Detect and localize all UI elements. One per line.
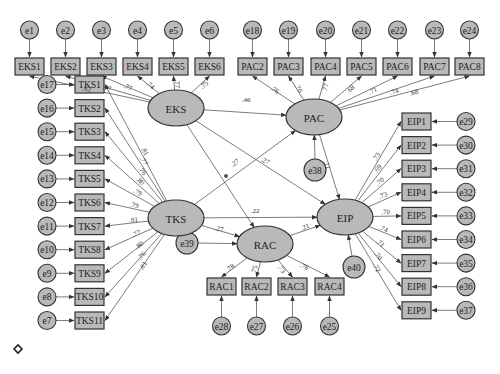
error-label: e18: [246, 26, 260, 36]
indicator-tks2[interactable]: TKS2: [75, 100, 104, 117]
error-term-e26[interactable]: e26: [284, 317, 302, 335]
latent-eks[interactable]: EKS: [148, 90, 204, 126]
error-term-e25[interactable]: e25: [321, 317, 339, 335]
indicator-eip6[interactable]: EIP6: [402, 231, 431, 248]
indicator-pac8[interactable]: PAC8: [455, 58, 484, 75]
error-term-e35[interactable]: e35: [457, 254, 475, 272]
indicator-rac3[interactable]: RAC3: [278, 278, 307, 295]
indicator-eks3[interactable]: EKS3: [87, 58, 116, 75]
error-term-e37[interactable]: e37: [457, 301, 475, 319]
error-term-e19[interactable]: e19: [280, 21, 298, 39]
indicator-eks4[interactable]: EKS4: [123, 58, 152, 75]
error-term-e10[interactable]: e10: [38, 241, 56, 259]
indicator-eip8[interactable]: EIP8: [402, 278, 431, 295]
error-term-e24[interactable]: e24: [461, 21, 479, 39]
path-crossing-dot: [224, 174, 228, 178]
indicator-tks8[interactable]: TKS8: [75, 241, 104, 258]
indicator-label: EKS4: [126, 62, 149, 72]
disturbance-e40[interactable]: e40: [343, 256, 365, 278]
path-coefficient: .21: [299, 221, 311, 232]
error-term-e6[interactable]: e6: [201, 21, 219, 39]
indicator-label: TKS6: [78, 198, 101, 208]
latent-label: RAC: [254, 239, 277, 251]
indicator-pac3[interactable]: PAC3: [274, 58, 303, 75]
error-term-e29[interactable]: e29: [457, 113, 475, 131]
path-coefficient: .69: [372, 163, 384, 175]
indicator-tks4[interactable]: TKS4: [75, 147, 104, 164]
error-term-e20[interactable]: e20: [317, 21, 335, 39]
indicator-eip1[interactable]: EIP1: [402, 113, 431, 130]
error-term-e3[interactable]: e3: [93, 21, 111, 39]
error-term-e16[interactable]: e16: [38, 99, 56, 117]
indicator-eip5[interactable]: EIP5: [402, 207, 431, 224]
error-term-e31[interactable]: e31: [457, 160, 475, 178]
indicator-tks10[interactable]: TKS10: [75, 288, 104, 305]
path-coefficient: .78: [224, 262, 236, 274]
indicator-pac5[interactable]: PAC5: [347, 58, 376, 75]
indicator-tks3[interactable]: TKS3: [75, 123, 104, 140]
indicator-pac7[interactable]: PAC7: [420, 58, 449, 75]
error-term-e27[interactable]: e27: [248, 317, 266, 335]
indicator-label: TKS7: [78, 222, 101, 232]
indicator-label: EIP1: [407, 117, 426, 127]
error-term-e28[interactable]: e28: [213, 317, 231, 335]
indicator-eip7[interactable]: EIP7: [402, 255, 431, 272]
indicator-rac1[interactable]: RAC1: [207, 278, 236, 295]
indicator-label: EIP9: [407, 306, 426, 316]
path-coefficient: .70: [372, 250, 384, 262]
error-term-e2[interactable]: e2: [57, 21, 75, 39]
indicator-pac2[interactable]: PAC2: [238, 58, 267, 75]
indicator-pac6[interactable]: PAC6: [383, 58, 412, 75]
error-term-e15[interactable]: e15: [38, 123, 56, 141]
path-coefficient: .77: [131, 228, 143, 239]
indicator-tks9[interactable]: TKS9: [75, 265, 104, 282]
indicator-rac2[interactable]: RAC2: [242, 278, 271, 295]
error-term-e30[interactable]: e30: [457, 136, 475, 154]
latent-pac[interactable]: PAC: [286, 99, 342, 135]
error-term-e33[interactable]: e33: [457, 207, 475, 225]
indicator-eip3[interactable]: EIP3: [402, 160, 431, 177]
error-term-e34[interactable]: e34: [457, 231, 475, 249]
error-term-e13[interactable]: e13: [38, 170, 56, 188]
disturbance-arrow: [348, 235, 352, 256]
error-term-e9[interactable]: e9: [38, 264, 56, 282]
indicator-tks5[interactable]: TKS5: [75, 170, 104, 187]
indicator-eks2[interactable]: EKS2: [51, 58, 80, 75]
latent-rac[interactable]: RAC: [237, 226, 293, 262]
indicator-label: TKS5: [78, 174, 101, 184]
indicator-tks7[interactable]: TKS7: [75, 218, 104, 235]
error-term-e36[interactable]: e36: [457, 278, 475, 296]
loading-arrow: [105, 228, 153, 250]
indicator-tks6[interactable]: TKS6: [75, 194, 104, 211]
error-term-e14[interactable]: e14: [38, 146, 56, 164]
error-term-e12[interactable]: e12: [38, 194, 56, 212]
error-label: e36: [459, 282, 473, 292]
error-term-e7[interactable]: e7: [38, 312, 56, 330]
indicator-eip4[interactable]: EIP4: [402, 184, 431, 201]
error-label: e2: [61, 26, 70, 36]
indicator-pac4[interactable]: PAC4: [311, 58, 340, 75]
error-term-e8[interactable]: e8: [38, 288, 56, 306]
indicator-eip9[interactable]: EIP9: [402, 302, 431, 319]
latent-tks[interactable]: TKS: [148, 200, 204, 236]
error-term-e1[interactable]: e1: [21, 21, 39, 39]
indicator-eip2[interactable]: EIP2: [402, 137, 431, 154]
error-term-e17[interactable]: e17: [38, 76, 56, 94]
indicator-eks1[interactable]: EKS1: [15, 58, 44, 75]
indicator-eks6[interactable]: EKS6: [195, 58, 224, 75]
indicator-rac4[interactable]: RAC4: [315, 278, 344, 295]
error-label: e33: [459, 211, 473, 221]
error-term-e4[interactable]: e4: [129, 21, 147, 39]
error-term-e11[interactable]: e11: [38, 217, 56, 235]
error-term-e18[interactable]: e18: [244, 21, 262, 39]
indicator-tks11[interactable]: TKS11: [75, 312, 104, 329]
move-handle-icon[interactable]: [14, 345, 22, 353]
indicator-eks5[interactable]: EKS5: [159, 58, 188, 75]
error-term-e5[interactable]: e5: [165, 21, 183, 39]
path-coefficient: .71: [374, 237, 386, 249]
error-term-e21[interactable]: e21: [353, 21, 371, 39]
error-term-e23[interactable]: e23: [426, 21, 444, 39]
latent-eip[interactable]: EIP: [317, 199, 373, 235]
error-term-e22[interactable]: e22: [389, 21, 407, 39]
error-term-e32[interactable]: e32: [457, 183, 475, 201]
